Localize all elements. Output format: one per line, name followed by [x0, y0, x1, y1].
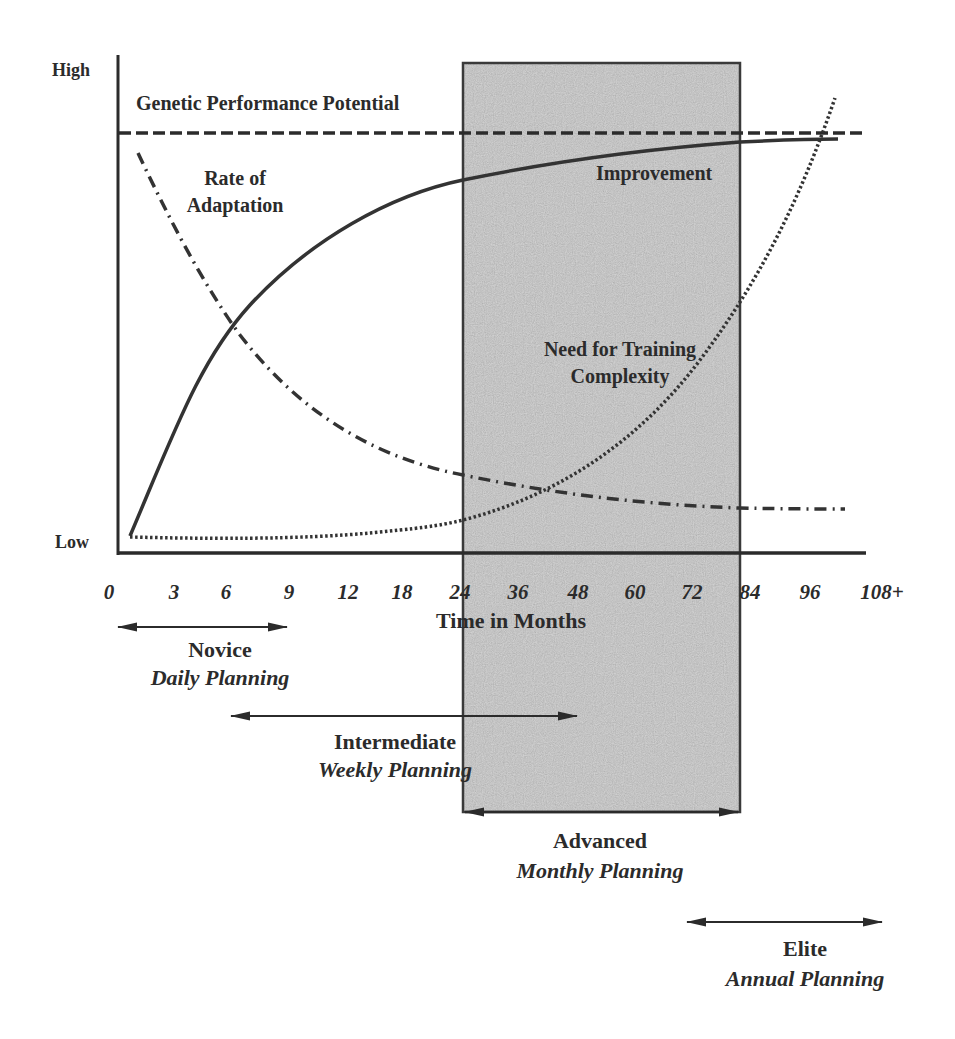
x-tick: 12: [338, 580, 359, 605]
x-tick: 24: [450, 580, 471, 605]
need-label-line1: Need for Training: [520, 336, 720, 363]
need-label-line2: Complexity: [520, 363, 720, 390]
x-tick: 3: [169, 580, 180, 605]
x-axis-title: Time in Months: [436, 608, 586, 634]
stage-advanced-planning: Monthly Planning: [490, 856, 710, 886]
stage-intermediate: Intermediate Weekly Planning: [270, 728, 520, 784]
stage-elite-planning: Annual Planning: [695, 964, 915, 994]
y-high-label: High: [52, 60, 90, 81]
x-tick: 96: [800, 580, 821, 605]
stage-elite: Elite Annual Planning: [695, 934, 915, 994]
x-tick: 60: [625, 580, 646, 605]
x-tick: 48: [568, 580, 589, 605]
x-tick: 18: [392, 580, 413, 605]
stage-novice-name: Novice: [120, 636, 320, 664]
x-tick: 36: [508, 580, 529, 605]
rate-label-line1: Rate of: [180, 165, 290, 192]
rate-of-adaptation-label: Rate of Adaptation: [180, 165, 290, 219]
y-low-label: Low: [55, 532, 89, 553]
rate-label-line2: Adaptation: [180, 192, 290, 219]
improvement-label: Improvement: [596, 162, 712, 185]
training-stages-chart: High Low Genetic Performance Potential R…: [0, 0, 955, 1039]
chart-graphics: [0, 0, 955, 1039]
stage-advanced: Advanced Monthly Planning: [490, 826, 710, 886]
x-tick: 6: [221, 580, 232, 605]
x-tick: 84: [740, 580, 761, 605]
genetic-potential-label: Genetic Performance Potential: [136, 92, 399, 115]
stage-advanced-name: Advanced: [490, 826, 710, 856]
stage-intermediate-planning: Weekly Planning: [270, 756, 520, 784]
x-tick: 9: [284, 580, 295, 605]
stage-novice: Novice Daily Planning: [120, 636, 320, 692]
stage-intermediate-name: Intermediate: [270, 728, 520, 756]
x-tick: 72: [682, 580, 703, 605]
x-tick: 0: [104, 580, 115, 605]
training-complexity-label: Need for Training Complexity: [520, 336, 720, 390]
stage-novice-planning: Daily Planning: [120, 664, 320, 692]
stage-elite-name: Elite: [695, 934, 915, 964]
x-tick: 108+: [860, 580, 903, 605]
